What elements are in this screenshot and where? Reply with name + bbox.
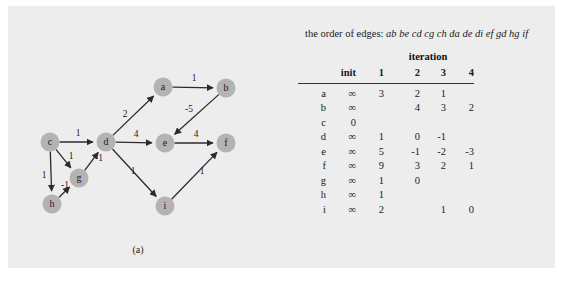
cell-init: ∞	[326, 145, 356, 160]
cell-i1: 5	[356, 145, 384, 160]
graph-edge-d-e	[115, 142, 152, 143]
cell-i2: 2	[384, 83, 420, 101]
order-of-edges: the order of edges: ab be cd cg ch da de…	[305, 28, 528, 39]
edge-weight-d-e: 4	[134, 129, 139, 139]
cell-init: ∞	[326, 188, 356, 203]
cell-init: ∞	[326, 130, 356, 145]
table-row: c0	[298, 116, 474, 131]
edge-weight-g-d: -1	[95, 153, 103, 163]
table-head: init 1 2 3 4	[298, 66, 474, 83]
cell-vertex: g	[298, 174, 326, 189]
header-vertex	[298, 66, 326, 83]
order-of-edges-sequence: ab be cd cg ch da de di ef gd hg if	[386, 28, 528, 39]
cell-vertex: h	[298, 188, 326, 203]
graph-panel: 1-51112414-1-11 abcdefghi (a)	[8, 6, 288, 268]
cell-i3: 1	[420, 83, 446, 101]
graph-node-label-i: i	[164, 200, 167, 211]
cell-i4	[446, 174, 474, 189]
table-row: h∞1	[298, 188, 474, 203]
header-iter-1: 1	[356, 66, 384, 83]
cell-i4	[446, 130, 474, 145]
cell-i2	[384, 203, 420, 218]
edge-weight-a-b: 1	[192, 73, 197, 83]
cell-i2: 0	[384, 130, 420, 145]
cell-i4	[446, 83, 474, 101]
cell-vertex: d	[298, 130, 326, 145]
cell-init: ∞	[326, 159, 356, 174]
cell-i3: 3	[420, 101, 446, 116]
cell-i1: 3	[356, 83, 384, 101]
edge-weight-c-g: 1	[69, 151, 74, 161]
cell-i1: 1	[356, 188, 384, 203]
edge-weight-b-e: -5	[185, 104, 193, 114]
distance-table: init 1 2 3 4 a∞321b∞432c0d∞10-1e∞5-1-2-3…	[298, 66, 474, 217]
table-row: f∞9321	[298, 159, 474, 174]
graph-edge-i-f	[172, 152, 217, 199]
cell-vertex: c	[298, 116, 326, 131]
header-iter-4: 4	[446, 66, 474, 83]
cell-vertex: b	[298, 101, 326, 116]
cell-vertex: f	[298, 159, 326, 174]
graph-node-label-d: d	[104, 136, 109, 147]
edge-weight-e-f: 4	[194, 129, 199, 139]
cell-init: ∞	[326, 101, 356, 116]
graph-node-label-h: h	[50, 198, 55, 209]
header-iter-3: 3	[420, 66, 446, 83]
edge-weight-h-g: -1	[61, 180, 69, 190]
table-row: e∞5-1-2-3	[298, 145, 474, 160]
cell-i1: 2	[356, 203, 384, 218]
table-panel: the order of edges: ab be cd cg ch da de…	[288, 6, 555, 268]
cell-init: ∞	[326, 203, 356, 218]
graph-node-label-a: a	[161, 81, 166, 92]
header-iter-2: 2	[384, 66, 420, 83]
graph-edge-c-h	[50, 151, 51, 191]
table-row: a∞321	[298, 83, 474, 101]
cell-i2: -1	[384, 145, 420, 160]
cell-i1	[356, 101, 384, 116]
cell-vertex: a	[298, 83, 326, 101]
cell-i3	[420, 188, 446, 203]
order-of-edges-label: the order of edges:	[305, 28, 383, 39]
graph-svg: 1-51112414-1-11 abcdefghi	[8, 6, 288, 268]
cell-i2: 4	[384, 101, 420, 116]
graph-node-label-c: c	[48, 136, 53, 147]
cell-i3	[420, 174, 446, 189]
cell-init: 0	[326, 116, 356, 131]
cell-i2: 3	[384, 159, 420, 174]
table-row: i∞210	[298, 203, 474, 218]
cell-i4: 0	[446, 203, 474, 218]
table-header-row: init 1 2 3 4	[298, 66, 474, 83]
table-row: g∞10	[298, 174, 474, 189]
edge-weight-d-a: 2	[123, 109, 128, 119]
cell-i2	[384, 188, 420, 203]
graph-node-label-b: b	[224, 82, 229, 93]
table-row: d∞10-1	[298, 130, 474, 145]
edge-weight-c-h: 1	[42, 170, 47, 180]
cell-i4: 1	[446, 159, 474, 174]
figure-panel: 1-51112414-1-11 abcdefghi (a) the order …	[8, 6, 555, 268]
edge-weight-d-i: 1	[131, 166, 136, 176]
cell-i3	[420, 116, 446, 131]
cell-i2: 0	[384, 174, 420, 189]
graph-nodes-layer: abcdefghi	[41, 78, 236, 216]
cell-vertex: e	[298, 145, 326, 160]
header-init: init	[326, 66, 356, 83]
cell-vertex: i	[298, 203, 326, 218]
edge-weight-i-f: 1	[200, 166, 205, 176]
caption-panel-a: (a)	[108, 244, 168, 255]
cell-i2	[384, 116, 420, 131]
cell-i4	[446, 188, 474, 203]
cell-init: ∞	[326, 174, 356, 189]
cell-i1: 9	[356, 159, 384, 174]
cell-i1: 1	[356, 174, 384, 189]
table-body: a∞321b∞432c0d∞10-1e∞5-1-2-3f∞9321g∞10h∞1…	[298, 83, 474, 217]
cell-i1	[356, 116, 384, 131]
cell-i3: 1	[420, 203, 446, 218]
graph-node-label-g: g	[77, 172, 82, 183]
cell-i4	[446, 116, 474, 131]
cell-i3: 2	[420, 159, 446, 174]
cell-init: ∞	[326, 83, 356, 101]
cell-i4: -3	[446, 145, 474, 160]
graph-edge-a-b	[172, 87, 213, 88]
table-row: b∞432	[298, 101, 474, 116]
